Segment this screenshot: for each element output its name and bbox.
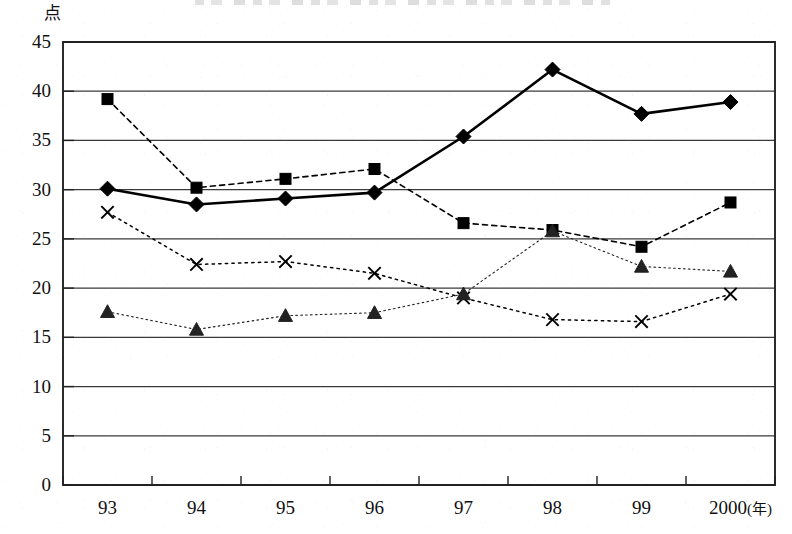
data-point-series-square-95	[280, 173, 291, 184]
data-point-series-triangle-2000	[724, 264, 738, 277]
y-tick-label-20: 20	[11, 278, 51, 297]
data-point-series-triangle-99	[635, 259, 649, 272]
y-tick-label-30: 30	[11, 180, 51, 199]
y-tick-label-25: 25	[11, 229, 51, 248]
y-tick-label-5: 5	[11, 426, 51, 445]
data-point-series-triangle-93	[101, 305, 115, 318]
data-point-series-diamond-99	[634, 106, 649, 121]
data-point-series-diamond-93	[100, 181, 115, 196]
y-tick-label-0: 0	[11, 475, 51, 494]
data-point-series-square-2000	[725, 197, 736, 208]
data-point-series-diamond-95	[278, 191, 293, 206]
series-lines-group	[108, 70, 731, 330]
data-point-series-triangle-95	[279, 309, 293, 322]
x-tick-label-2000: 2000(年)	[686, 497, 792, 520]
x-axis-unit-suffix: (年)	[747, 501, 772, 517]
x-tick-label-99: 99	[587, 497, 697, 518]
data-point-series-diamond-2000	[723, 95, 738, 110]
series-line-series-square	[108, 99, 731, 247]
data-point-series-square-93	[102, 94, 113, 105]
data-point-series-square-97	[458, 218, 469, 229]
data-point-series-cross-93	[101, 206, 113, 218]
x-axis-tick-marks	[63, 476, 775, 485]
data-point-series-square-99	[636, 241, 647, 252]
y-tick-label-15: 15	[11, 327, 51, 346]
data-point-series-cross-2000	[724, 288, 736, 300]
y-tick-label-45: 45	[11, 32, 51, 51]
plot-frame	[63, 42, 775, 485]
y-axis-tick-marks	[63, 42, 74, 485]
data-point-series-diamond-96	[367, 185, 382, 200]
y-tick-label-40: 40	[11, 81, 51, 100]
data-point-series-square-96	[369, 163, 380, 174]
series-markers-group	[100, 62, 738, 335]
data-point-series-square-94	[191, 182, 202, 193]
chart-plot-canvas	[0, 0, 792, 534]
y-tick-label-10: 10	[11, 377, 51, 396]
chart-figure: 点 051015202530354045 939495969798992000(…	[0, 0, 792, 534]
data-point-series-triangle-94	[190, 322, 204, 335]
data-point-series-cross-95	[279, 255, 291, 267]
gridlines-group	[63, 42, 775, 485]
data-point-series-diamond-94	[189, 197, 204, 212]
y-tick-label-35: 35	[11, 130, 51, 149]
